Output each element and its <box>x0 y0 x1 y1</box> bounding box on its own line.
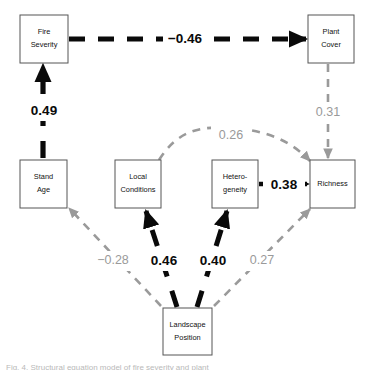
node-label-plant-cover-line2: Cover <box>321 40 341 49</box>
node-label-stand-age-line1: Stand <box>34 172 53 181</box>
node-local-conditions[interactable]: Local Conditions <box>115 160 161 208</box>
node-label-landscape-position-line2: Position <box>174 333 200 342</box>
coefficient-label-heterogeneity-to-richness: 0.38 <box>271 177 298 192</box>
coefficient-heterogeneity-to-richness: 0.38 <box>263 174 305 194</box>
coefficient-stand-age-to-fire-severity: 0.49 <box>22 100 66 121</box>
node-label-local-conditions-line1: Local <box>129 172 147 181</box>
node-label-heterogeneity-line2: geneity <box>223 185 247 194</box>
node-label-plant-cover-line1: Plant <box>323 27 340 36</box>
coefficient-label-local-conditions-to-richness: 0.26 <box>219 128 243 142</box>
node-label-fire-severity-line2: Severity <box>31 40 58 49</box>
node-label-stand-age-line2: Age <box>37 185 50 194</box>
node-label-local-conditions-line2: Conditions <box>121 185 156 194</box>
node-label-fire-severity-line1: Fire <box>38 27 51 36</box>
node-label-landscape-position-line1: Landscape <box>169 320 205 329</box>
coefficient-label-landscape-position-to-heterogeneity: 0.40 <box>200 253 226 268</box>
coefficient-label-stand-age-to-fire-severity: 0.49 <box>31 103 57 118</box>
node-plant-cover[interactable]: Plant Cover <box>308 15 354 63</box>
figure-caption: Fig. 4. Structural equation model of fir… <box>6 363 306 370</box>
coefficient-label-fire-severity-to-plant-cover: −0.46 <box>168 31 203 46</box>
node-richness[interactable]: Richness <box>310 160 355 208</box>
node-stand-age[interactable]: Stand Age <box>20 160 67 208</box>
coefficient-local-conditions-to-richness: 0.26 <box>211 126 251 145</box>
node-box-landscape-position <box>163 308 212 355</box>
coefficient-landscape-position-to-heterogeneity: 0.40 <box>192 250 234 271</box>
node-heterogeneity[interactable]: Hetero- geneity <box>212 160 258 208</box>
coefficient-label-landscape-position-to-richness: 0.27 <box>250 253 274 267</box>
coefficient-plant-cover-to-richness: 0.31 <box>307 103 349 123</box>
coefficient-landscape-position-to-richness: 0.27 <box>242 251 283 271</box>
coefficient-fire-severity-to-plant-cover: −0.46 <box>163 28 207 49</box>
node-label-heterogeneity-line1: Hetero- <box>223 172 248 181</box>
node-label-richness-line1: Richness <box>317 179 348 188</box>
coefficient-landscape-position-to-local-conditions: 0.46 <box>143 250 185 271</box>
coefficient-label-landscape-position-to-local-conditions: 0.46 <box>151 253 178 268</box>
node-landscape-position[interactable]: Landscape Position <box>163 308 212 355</box>
path-diagram: Fire Severity Plant Cover Stand Age Loca… <box>0 0 368 370</box>
node-fire-severity[interactable]: Fire Severity <box>20 15 68 63</box>
coefficient-landscape-position-to-stand-age: −0.28 <box>90 251 136 271</box>
coefficient-label-landscape-position-to-stand-age: −0.28 <box>97 253 129 267</box>
coefficient-label-plant-cover-to-richness: 0.31 <box>316 105 340 119</box>
